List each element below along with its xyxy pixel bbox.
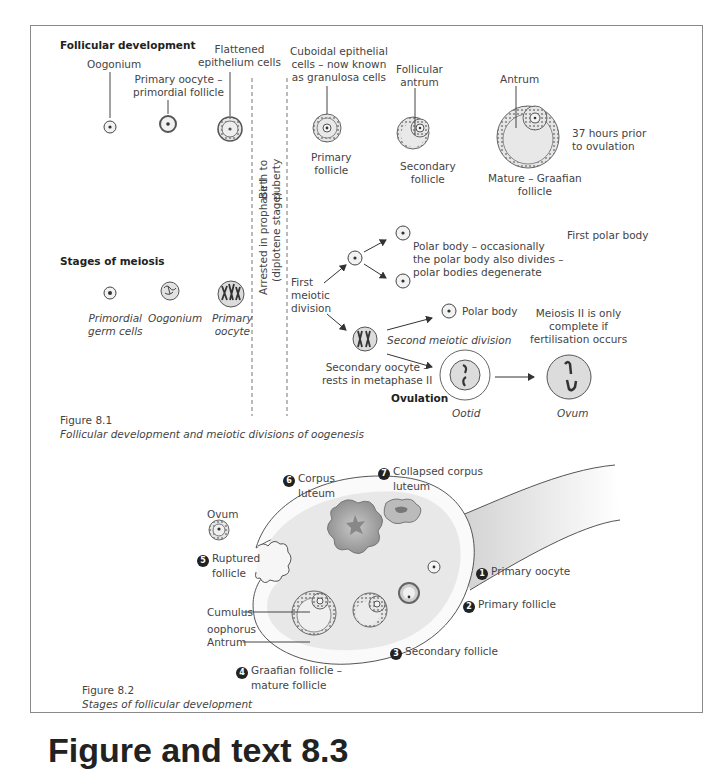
label-first-meiotic-division: Firstmeioticdivision — [291, 276, 331, 315]
secondary-oocyte-icon — [353, 327, 377, 351]
oogonium-cell-icon — [104, 72, 116, 133]
primary-oocyte-chromosomes-icon — [218, 281, 244, 307]
ovum-icon — [547, 355, 591, 399]
label-mature-graafian: Mature – Graafianfollicle — [488, 172, 582, 198]
arrow-icon — [364, 240, 386, 252]
label-ovulation: Ovulation — [391, 392, 448, 405]
arrow-icon — [387, 318, 432, 330]
polar-body-icon — [396, 226, 410, 288]
label-arrested-prophase: Arrested in prophase I(diplotene stage) — [257, 179, 283, 295]
first-division-cell-icon — [348, 251, 362, 265]
number-badge: 3 — [390, 648, 402, 660]
label-secondary-follicle-3: 3Secondary follicle — [390, 645, 498, 660]
label-follicular-antrum: Follicularantrum — [396, 63, 443, 89]
label-second-meiotic-division: Second meiotic division — [387, 334, 511, 347]
arrow-icon — [364, 264, 386, 278]
label-primary-oocyte-1: 1Primary oocyte — [476, 565, 570, 580]
primordial-germ-cell-icon — [104, 287, 116, 299]
number-badge: 4 — [236, 667, 248, 679]
label-polar-body: Polar body — [462, 305, 517, 318]
number-badge: 5 — [197, 555, 209, 567]
ovary-primary-oocyte-icon — [428, 561, 440, 573]
number-badge: 7 — [378, 468, 390, 480]
oogonium-chromatin-icon — [161, 282, 179, 300]
number-badge: 6 — [283, 475, 295, 487]
figure-8-2-number: Figure 8.2 — [82, 684, 134, 697]
number-badge: 2 — [463, 601, 475, 613]
label-primordial-germ-cells: Primordialgerm cells — [88, 312, 143, 338]
primary-follicle-icon — [313, 86, 341, 142]
label-ovum: Ovum — [557, 407, 588, 420]
second-polar-body-icon — [442, 304, 456, 318]
label-secondary-oocyte: Secondary oocyte –rests in metaphase II — [322, 361, 432, 387]
label-primary-oocyte: Primary oocyte –primordial follicle — [133, 73, 224, 99]
label-secondary-follicle: Secondaryfollicle — [400, 160, 456, 186]
released-ovum-icon — [209, 520, 229, 540]
cropped-page-heading: Figure and text 8.3 — [48, 731, 348, 770]
label-antrum-fig2: Antrum — [207, 636, 246, 649]
ovary-secondary-follicle-icon — [353, 593, 387, 627]
label-cumulus-oophorus: Cumulusoophorus — [207, 606, 256, 636]
label-fig2-ovum: Ovum — [207, 508, 238, 521]
label-antrum: Antrum — [500, 73, 539, 86]
label-meiosis-primary-oocyte: Primaryoocyte — [212, 312, 253, 338]
label-primary-follicle: Primaryfollicle — [311, 151, 352, 177]
ovary-graafian-follicle-icon — [292, 591, 336, 635]
primordial-follicle-icon — [160, 100, 176, 132]
label-meiosis-oogonium: Oogonium — [148, 312, 202, 325]
label-primary-follicle-2: 2Primary follicle — [463, 598, 556, 613]
label-first-polar-body: First polar body — [567, 229, 649, 242]
label-ruptured-follicle: 5Ruptured follicle — [197, 552, 260, 580]
label-oogonium: Oogonium — [87, 58, 141, 71]
ovary-primary-follicle-icon — [399, 583, 419, 603]
secondary-follicle-icon — [397, 88, 429, 149]
figure-8-1-caption: Follicular development and meiotic divis… — [60, 428, 364, 441]
figure-8-2-caption: Stages of follicular development — [82, 698, 252, 711]
label-flattened-epithelium: Flattenedepithelium cells — [198, 43, 281, 69]
label-graafian-follicle-4: 4Graafian follicle – mature follicle — [236, 664, 342, 692]
section-title-meiosis: Stages of meiosis — [60, 255, 165, 268]
section-title-follicular: Follicular development — [60, 39, 195, 52]
label-cuboidal-cells: Cuboidal epithelialcells – now knownas g… — [290, 45, 388, 84]
label-collapsed-corpus-luteum: 7Collapsed corpus luteum — [378, 465, 483, 493]
arrow-icon — [327, 314, 346, 330]
label-37-hours: 37 hours priorto ovulation — [572, 127, 646, 153]
label-corpus-luteum: 6Corpus luteum — [283, 472, 335, 500]
number-badge: 1 — [476, 568, 488, 580]
label-ootid: Ootid — [452, 407, 480, 420]
figure-8-1-number: Figure 8.1 — [60, 414, 112, 427]
label-polar-body-note: Polar body – occasionallythe polar body … — [413, 240, 563, 279]
graafian-follicle-icon — [497, 86, 559, 168]
label-meiosis-ii-note: Meiosis II is onlycomplete iffertilisati… — [530, 307, 627, 346]
